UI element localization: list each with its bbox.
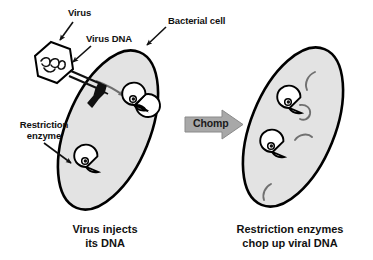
right-caption-line2: chop up viral DNA [207, 236, 373, 250]
chomp-label: Chomp [193, 118, 229, 130]
left-caption-line2: its DNA [30, 236, 180, 250]
left-caption-line1: Virus injects [30, 222, 180, 236]
right-panel-caption: Restriction enzymes chop up viral DNA [207, 222, 373, 250]
enzyme-pupil [287, 100, 290, 103]
restriction-enzyme-label: Restriction enzyme [10, 120, 78, 141]
virus-leader-line [60, 22, 73, 40]
restriction-enzyme-label-line2: enzyme [10, 131, 78, 142]
left-panel-caption: Virus injects its DNA [30, 222, 180, 250]
enzyme-pupil [132, 97, 135, 100]
enzyme-pupil [84, 159, 87, 162]
enzyme-pupil [270, 144, 273, 147]
right-bacterial-cell [223, 33, 364, 220]
virus-label: Virus [68, 8, 91, 19]
bacterial-cell-leader-line [147, 27, 166, 45]
restriction-enzyme-diagram: Virus Virus DNA Bacterial cell Restricti… [0, 0, 373, 260]
virus-dna-leader-line [73, 46, 91, 62]
right-caption-line1: Restriction enzymes [207, 222, 373, 236]
virus-dna-label: Virus DNA [86, 34, 132, 45]
virus-capsid-head [35, 42, 73, 83]
right-cell-membrane [223, 33, 364, 220]
bacterial-cell-label: Bacterial cell [168, 16, 225, 27]
